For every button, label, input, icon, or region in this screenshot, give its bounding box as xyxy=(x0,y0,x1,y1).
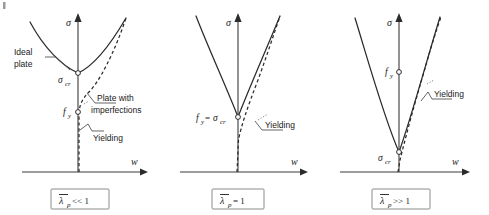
yielding-label: Yielding xyxy=(434,89,464,99)
yielding-label: Yielding xyxy=(93,133,123,143)
lambda-relation: = 1 xyxy=(233,196,245,206)
lambda-subscript: p xyxy=(66,201,71,209)
svg-text:=: = xyxy=(205,113,210,123)
lambda-symbol: λ xyxy=(379,195,385,206)
buckling-diagram-figure: w σ σ cr f y Ideal plate Plate with impe… xyxy=(0,0,489,215)
lambda-subscript: p xyxy=(227,201,232,209)
sigma-cr-marker xyxy=(76,71,81,76)
x-axis-label: w xyxy=(452,156,459,167)
lambda-symbol: λ xyxy=(58,195,64,206)
ideal-plate-label-line2: plate xyxy=(14,59,33,69)
svg-text:cr: cr xyxy=(220,118,226,126)
svg-text:cr: cr xyxy=(385,158,391,166)
page-artifact-speck xyxy=(3,2,6,9)
svg-text:σ: σ xyxy=(378,153,383,163)
x-axis-label: w xyxy=(131,156,138,167)
f-y-marker xyxy=(76,110,81,115)
lambda-relation: << 1 xyxy=(72,196,89,206)
x-axis-label: w xyxy=(291,156,298,167)
yielding-label: Yielding xyxy=(265,120,295,130)
sigma-cr-marker xyxy=(397,150,402,155)
svg-text:σ: σ xyxy=(213,113,218,123)
lambda-subscript: p xyxy=(387,201,392,209)
figure-background xyxy=(0,0,489,215)
svg-text:σ: σ xyxy=(58,75,63,85)
lambda-relation: >> 1 xyxy=(393,196,410,206)
ideal-plate-label-line1: Ideal xyxy=(14,47,33,57)
lambda-symbol: λ xyxy=(219,195,225,206)
plate-with-imperfections-label-line2: imperfections xyxy=(91,105,142,115)
plate-with-imperfections-label-line1: Plate with xyxy=(97,93,134,103)
fy-equals-sigma-cr-marker xyxy=(236,115,241,120)
svg-text:cr: cr xyxy=(65,80,71,88)
f-y-marker xyxy=(397,70,402,75)
